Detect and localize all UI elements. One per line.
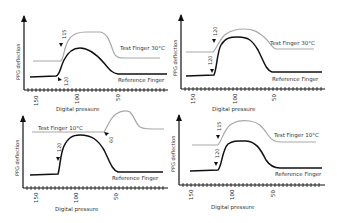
test-finger-label: Test Finger 30°C — [119, 45, 165, 52]
x-tick-100: 100 — [73, 192, 79, 203]
test-onset-arrow-icon — [216, 135, 220, 139]
test-onset-arrow-icon — [212, 39, 216, 43]
x-axis-ticks — [28, 88, 164, 92]
x-tick-150: 150 — [33, 192, 39, 203]
x-tick-50: 50 — [271, 94, 277, 101]
x-axis-label: Digital pressure — [56, 106, 100, 113]
reference-onset-arrow-icon — [210, 69, 214, 73]
x-tick-50: 50 — [113, 193, 119, 200]
test-onset-value: 115 — [216, 121, 222, 131]
y-axis-arrow-icon — [21, 15, 27, 22]
x-tick-100: 100 — [74, 93, 80, 104]
panel-bottom-right: PPG deflection 150 100 50 Digital pressu… — [170, 114, 325, 211]
y-axis-label: PPG deflection — [170, 136, 176, 172]
x-tick-50: 50 — [115, 94, 121, 101]
reference-onset-value: 120 — [63, 76, 69, 86]
x-tick-150: 150 — [33, 95, 39, 106]
test-finger-label: Test Finger 10°C — [37, 125, 83, 132]
x-tick-50: 50 — [270, 190, 276, 197]
x-tick-150: 150 — [188, 189, 194, 200]
reference-onset-value: 120 — [56, 142, 62, 152]
reference-onset-value: 120 — [207, 55, 213, 65]
panel-bottom-left: PPG deflection 150 100 50 Digital pressu… — [14, 111, 168, 213]
reference-finger-label: Reference Finger — [112, 175, 159, 182]
test-onset-value: 60 — [108, 137, 114, 143]
reference-finger-label: Reference Finger — [275, 171, 322, 178]
test-onset-arrow-icon — [59, 43, 63, 47]
x-tick-100: 100 — [229, 189, 235, 200]
x-axis-label: Digital pressure — [212, 106, 256, 113]
x-axis-ticks — [27, 186, 163, 190]
reference-onset-arrow-icon — [214, 162, 218, 166]
test-onset-value: 120 — [212, 26, 218, 36]
x-axis-ticks — [185, 87, 321, 91]
y-axis-arrow-icon — [20, 115, 26, 122]
x-axis-ticks — [183, 183, 319, 187]
panel-top-left: PPG deflection 150 100 50 Digital pressu… — [15, 15, 168, 113]
reference-onset-arrow-icon — [56, 157, 60, 161]
x-tick-150: 150 — [190, 93, 196, 104]
y-axis-arrow-icon — [178, 14, 184, 21]
test-onset-value: 115 — [61, 29, 67, 39]
y-axis-label: PPG deflection — [172, 40, 178, 76]
reference-onset-arrow-icon — [58, 77, 62, 81]
y-axis-label: PPG deflection — [15, 44, 21, 80]
test-finger-label: Test Finger 10°C — [273, 132, 319, 139]
panel-top-right: PPG deflection 150 100 50 Digital pressu… — [172, 14, 325, 113]
x-axis-label: Digital pressure — [211, 204, 255, 211]
reference-finger-curve — [30, 48, 167, 77]
reference-finger-label: Reference Finger — [118, 77, 165, 84]
y-axis-label: PPG deflection — [14, 140, 20, 176]
x-tick-100: 100 — [232, 93, 238, 104]
test-finger-label: Test Finger 30°C — [269, 40, 315, 47]
reference-finger-label: Reference Finger — [272, 76, 319, 83]
reference-onset-value: 120 — [214, 148, 220, 158]
x-axis-label: Digital pressure — [55, 206, 99, 213]
y-axis-arrow-icon — [176, 114, 182, 121]
test-onset-arrow-icon — [104, 132, 109, 136]
ppg-figure: PPG deflection 150 100 50 Digital pressu… — [0, 0, 341, 223]
reference-finger-curve — [30, 135, 163, 175]
